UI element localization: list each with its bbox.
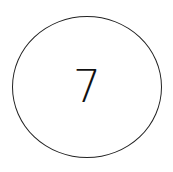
node-label: 7	[12, 16, 162, 158]
diagram-canvas: 7	[0, 0, 173, 172]
